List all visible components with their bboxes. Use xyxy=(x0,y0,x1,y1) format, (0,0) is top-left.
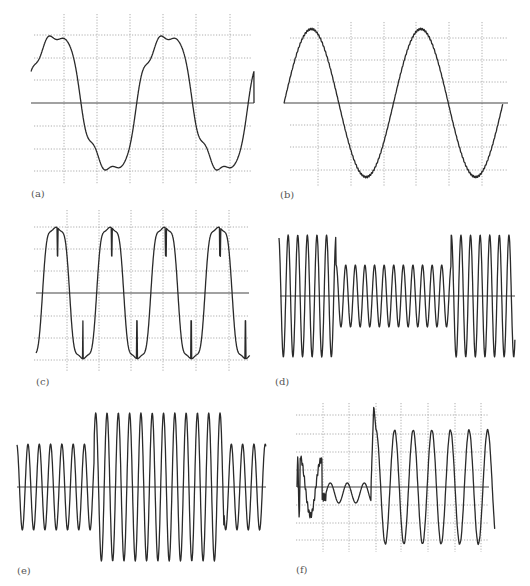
panel-label-a: (a) xyxy=(31,188,45,199)
grid-b xyxy=(290,22,508,186)
grid-c xyxy=(34,210,248,372)
panel-label-b: (b) xyxy=(280,189,294,200)
panel-label-d: (d) xyxy=(275,376,289,387)
panel-c: (c) xyxy=(34,210,250,387)
panel-a: (a) xyxy=(31,14,254,199)
panel-label-c: (c) xyxy=(36,376,50,387)
panel-label-f: (f) xyxy=(296,564,308,575)
grid-a xyxy=(34,14,252,184)
panel-label-e: (e) xyxy=(17,565,31,576)
panel-b: (b) xyxy=(280,22,508,200)
waveform-f xyxy=(297,408,495,545)
waveform-figure: (a) (b) (c) (d) (e) (f) xyxy=(0,0,530,586)
panel-e: (e) xyxy=(17,413,266,576)
panel-f: (f) xyxy=(296,403,495,575)
grid-f xyxy=(296,403,489,552)
panel-d: (d) xyxy=(275,235,515,387)
